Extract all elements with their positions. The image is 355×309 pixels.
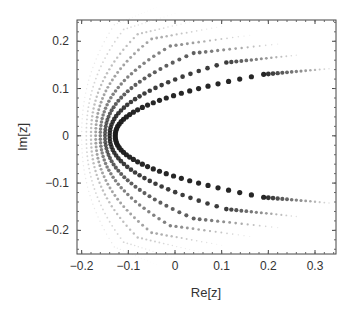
data-points — [81, 7, 330, 265]
x-tick-label: 0.3 — [307, 259, 324, 273]
x-tick-label: 0.1 — [213, 259, 230, 273]
y-tick-label: 0.1 — [52, 82, 69, 96]
x-tick-label: −0.2 — [70, 259, 94, 273]
y-tick-label: 0 — [62, 129, 69, 143]
x-tick-label: 0 — [172, 259, 179, 273]
x-tick-label: 0.2 — [260, 259, 277, 273]
y-axis-label: Im[z] — [15, 123, 30, 151]
y-tick-label: −0.1 — [45, 176, 69, 190]
x-tick-label: −0.1 — [116, 259, 140, 273]
scatter-chart: −0.2−0.100.10.20.3 −0.2−0.100.10.2 Re[z]… — [0, 0, 355, 309]
y-axis-ticks: −0.2−0.100.10.2 — [45, 22, 336, 249]
y-tick-label: 0.2 — [52, 34, 69, 48]
x-axis-label: Re[z] — [191, 285, 221, 300]
y-tick-label: −0.2 — [45, 223, 69, 237]
